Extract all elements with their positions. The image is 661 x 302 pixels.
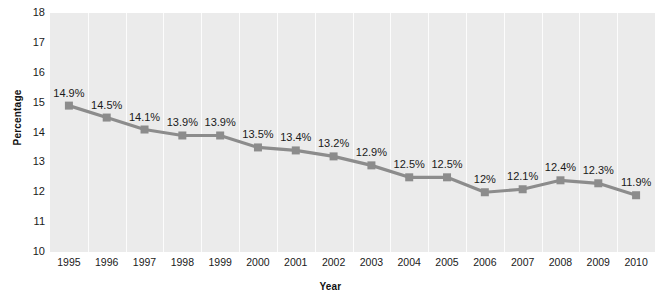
x-axis-tick-2010: 2010 [613, 256, 659, 268]
data-label-2005: 12.5% [431, 158, 462, 170]
data-label-2009: 12.3% [583, 164, 614, 176]
y-axis-tick-12: 12 [11, 185, 45, 197]
data-point-marker [443, 173, 451, 181]
data-label-2000: 13.5% [242, 128, 273, 140]
line-chart: the great the sample suppliessupply the … [0, 0, 661, 302]
data-point-marker [556, 176, 564, 184]
data-point-marker [632, 191, 640, 199]
y-axis-tick-11: 11 [11, 215, 45, 227]
data-point-marker [178, 131, 186, 139]
data-label-1996: 14.5% [91, 99, 122, 111]
data-label-1995: 14.9% [53, 87, 84, 99]
data-label-1998: 13.9% [167, 116, 198, 128]
data-label-2004: 12.5% [394, 158, 425, 170]
data-label-2002: 13.2% [318, 137, 349, 149]
data-label-2007: 12.1% [507, 170, 538, 182]
data-point-marker [65, 102, 73, 110]
x-axis-title: Year [0, 281, 661, 292]
y-axis-tick-18: 18 [11, 6, 45, 18]
data-label-2010: 11.9% [621, 176, 651, 188]
data-point-marker [367, 161, 375, 169]
data-label-2008: 12.4% [545, 161, 576, 173]
data-point-marker [519, 185, 527, 193]
data-label-2003: 12.9% [356, 146, 387, 158]
data-point-marker [254, 143, 262, 151]
y-axis-title: Percentage [12, 73, 23, 163]
data-point-marker [405, 173, 413, 181]
data-point-marker [103, 114, 111, 122]
data-label-2006: 12% [474, 173, 496, 185]
data-point-marker [481, 188, 489, 196]
data-point-marker [216, 131, 224, 139]
y-axis-tick-17: 17 [11, 36, 45, 48]
data-label-1999: 13.9% [205, 116, 236, 128]
data-label-1997: 14.1% [129, 111, 160, 123]
data-point-marker [330, 152, 338, 160]
data-point-marker [292, 146, 300, 154]
data-label-2001: 13.4% [280, 131, 311, 143]
y-axis-tick-10: 10 [11, 245, 45, 257]
data-point-marker [141, 126, 149, 134]
data-point-marker [594, 179, 602, 187]
